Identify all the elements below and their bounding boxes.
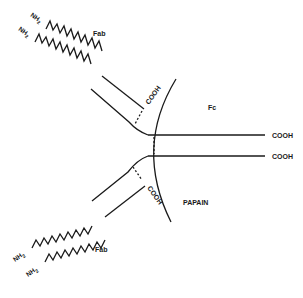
fc-label: Fc: [208, 104, 216, 111]
lower-fab-disulfide: [133, 167, 142, 180]
lower-fab-cooh-label: COOH: [146, 185, 164, 206]
nh2-bottom-1-label: NH2: [12, 250, 27, 264]
fc-cooh-upper-label: COOH: [272, 132, 293, 139]
papain-label: PAPAIN: [183, 199, 208, 206]
nh2-top-1-label: NH2: [28, 11, 43, 25]
lower-fab-zigzag-outer: [32, 226, 92, 248]
antibody-papain-diagram: Fab Fc PAPAIN Fab COOH COOH COOH COOH NH…: [0, 0, 303, 298]
fc-cooh-lower-label: COOH: [272, 153, 293, 160]
fab-top-label: Fab: [93, 30, 105, 37]
upper-fab-chain-inner: [91, 89, 148, 135]
nh2-bottom-2-label: NH2: [25, 265, 40, 279]
upper-fab-disulfide: [135, 111, 142, 124]
fab-bottom-label: Fab: [95, 246, 107, 253]
upper-fab-cooh-label: COOH: [144, 84, 162, 105]
nh2-top-2-label: NH2: [16, 25, 31, 39]
lower-fab-chain-inner: [105, 186, 145, 217]
lower-fab-chain-outer: [92, 156, 148, 201]
